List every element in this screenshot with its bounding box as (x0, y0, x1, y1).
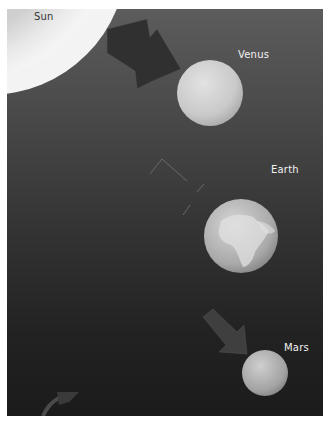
curved-arrow-partial (43, 392, 79, 416)
mars-body (242, 350, 288, 396)
venus-label: Venus (238, 49, 269, 60)
mars-label: Mars (284, 342, 309, 353)
arrow-venus-to-earth (150, 159, 204, 215)
sun-label: Sun (34, 11, 54, 22)
solar-system-diagram: Sun Venus Earth Mars (7, 9, 323, 416)
earth-body (204, 199, 278, 273)
arrow-sun-to-venus (107, 19, 181, 89)
venus-body (177, 60, 243, 126)
earth-label: Earth (271, 164, 299, 175)
arrow-earth-to-mars (203, 309, 247, 354)
diagram-canvas (7, 9, 323, 416)
